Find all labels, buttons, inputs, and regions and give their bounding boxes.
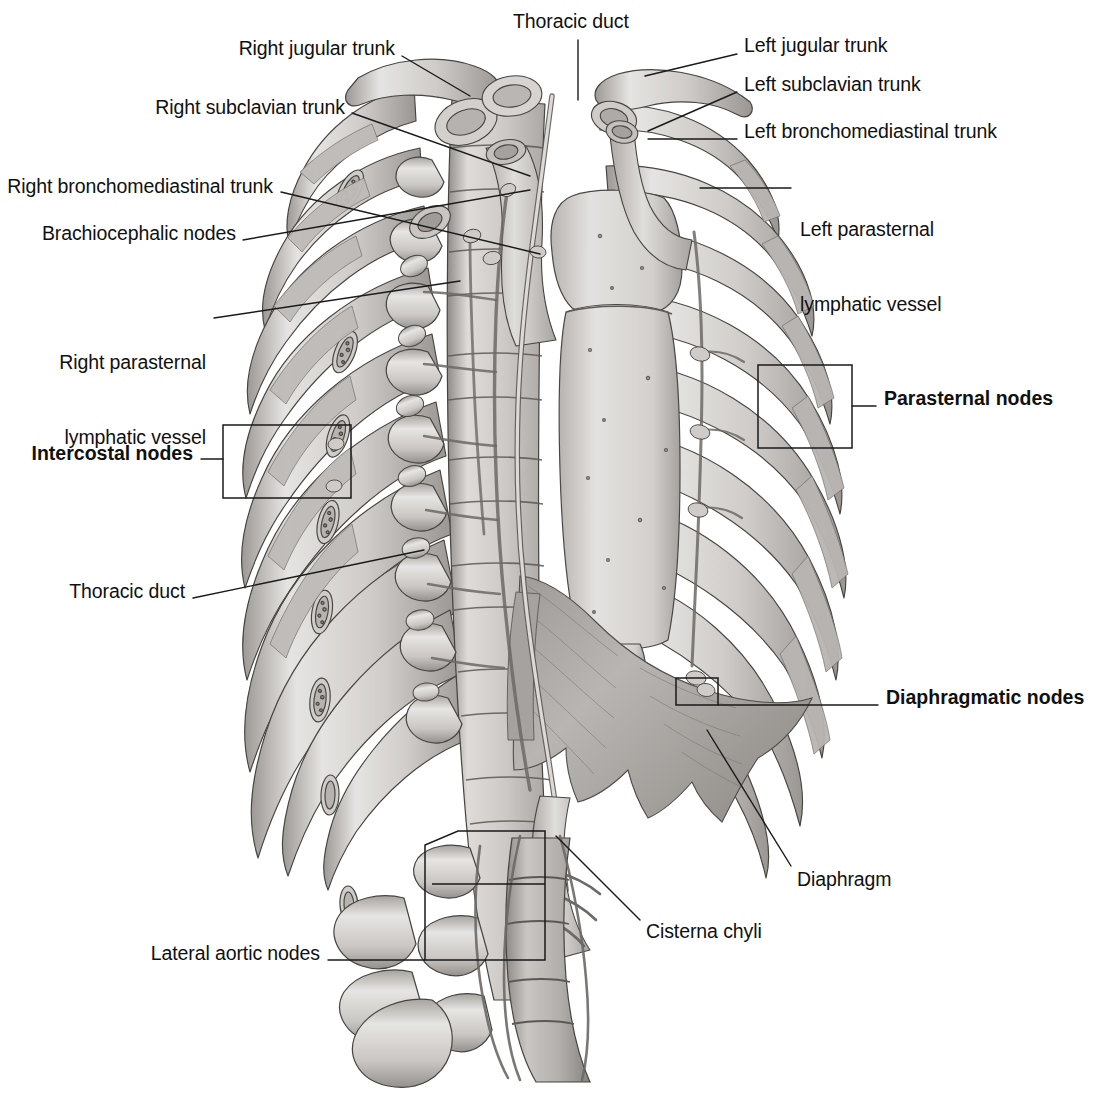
label-line-2: lymphatic vessel (800, 292, 941, 317)
anatomical-figure: Right jugular trunk Thoracic duct Left j… (0, 0, 1097, 1113)
label-diaphragmatic-nodes: Diaphragmatic nodes (886, 685, 1084, 710)
label-cisterna-chyli: Cisterna chyli (646, 919, 762, 944)
label-lateral-aortic-nodes: Lateral aortic nodes (151, 941, 320, 966)
label-brachiocephalic-nodes: Brachiocephalic nodes (42, 221, 236, 246)
label-thoracic-duct-top: Thoracic duct (513, 9, 629, 34)
label-diaphragm: Diaphragm (797, 867, 891, 892)
label-right-parasternal-lymphatic-vessel: Right parasternal lymphatic vessel (59, 300, 206, 500)
label-left-jugular-trunk: Left jugular trunk (744, 33, 887, 58)
label-line-1: Right parasternal (59, 350, 206, 375)
label-left-parasternal-lymphatic-vessel: Left parasternal lymphatic vessel (800, 167, 941, 367)
label-left-bronchomediastinal-trunk: Left bronchomediastinal trunk (744, 119, 997, 144)
label-line-1: Left parasternal (800, 217, 941, 242)
label-thoracic-duct-mid: Thoracic duct (69, 579, 185, 604)
label-right-jugular-trunk: Right jugular trunk (239, 36, 395, 61)
label-right-bronchomediastinal-trunk: Right bronchomediastinal trunk (7, 174, 273, 199)
label-left-subclavian-trunk: Left subclavian trunk (744, 72, 921, 97)
label-parasternal-nodes: Parasternal nodes (884, 386, 1053, 411)
label-right-subclavian-trunk: Right subclavian trunk (155, 95, 345, 120)
label-intercostal-nodes: Intercostal nodes (32, 441, 193, 466)
